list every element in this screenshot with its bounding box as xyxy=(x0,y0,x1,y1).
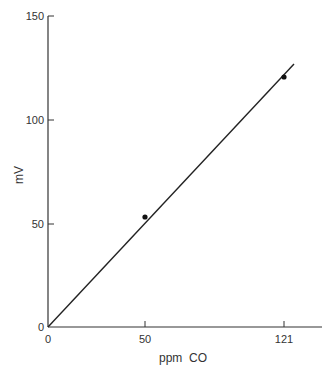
y-tick-label-50: 50 xyxy=(32,218,44,230)
chart: 150 100 50 0 0 50 121 ppm CO mV xyxy=(0,0,331,374)
data-point-121 xyxy=(281,74,286,79)
x-axis-label: ppm CO xyxy=(159,351,207,365)
y-tick-label-100: 100 xyxy=(26,114,44,126)
data-point-50 xyxy=(142,214,147,219)
fit-line xyxy=(48,64,294,327)
y-axis-label: mV xyxy=(12,166,26,184)
y-tick-label-0: 0 xyxy=(38,321,44,333)
y-tick-label-150: 150 xyxy=(26,10,44,22)
x-tick-label-0: 0 xyxy=(45,333,51,345)
x-ticks xyxy=(145,321,284,327)
x-tick-label-50: 50 xyxy=(139,333,151,345)
y-ticks xyxy=(48,16,54,224)
x-tick-label-121: 121 xyxy=(275,333,293,345)
